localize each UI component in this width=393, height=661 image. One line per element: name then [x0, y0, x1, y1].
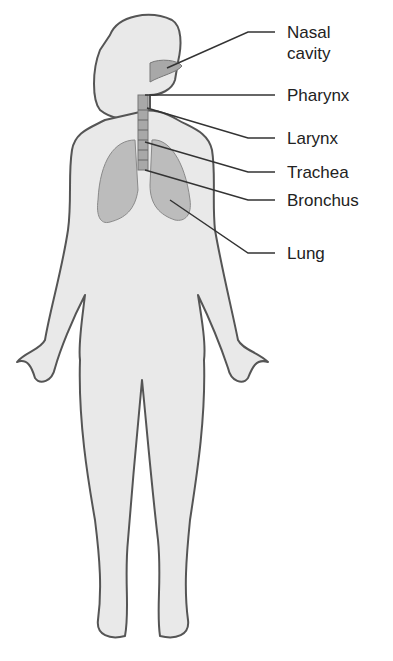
label-line2: cavity: [287, 43, 330, 64]
trachea-shape: [138, 95, 148, 170]
label-nasal-cavity: Nasal cavity: [287, 22, 330, 64]
label-trachea: Trachea: [287, 162, 349, 183]
label-larynx: Larynx: [287, 128, 338, 149]
label-bronchus: Bronchus: [287, 190, 359, 211]
label-pharynx: Pharynx: [287, 85, 349, 106]
label-line1: Nasal: [287, 22, 330, 43]
label-lung: Lung: [287, 243, 325, 264]
torso: [17, 110, 268, 637]
